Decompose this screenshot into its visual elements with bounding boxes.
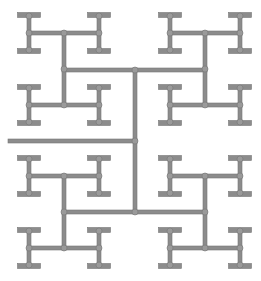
joint-node (237, 13, 243, 19)
joint-node (202, 102, 208, 108)
root-line (8, 139, 137, 143)
joint-node (237, 119, 243, 125)
joint-node (167, 119, 173, 125)
joint-node (26, 245, 32, 251)
joint-node (26, 190, 32, 196)
joint-node (26, 47, 32, 53)
joint-node (96, 13, 102, 19)
joint-node (167, 190, 173, 196)
joint-node (26, 156, 32, 162)
h-tree-diagram (0, 0, 261, 281)
joint-node (202, 173, 208, 179)
joint-node (237, 47, 243, 53)
joint-node (167, 85, 173, 91)
joint-node (96, 173, 102, 179)
joint-node (96, 262, 102, 268)
joint-node (26, 262, 32, 268)
joint-node (167, 173, 173, 179)
joint-node (237, 30, 243, 36)
joint-node (96, 119, 102, 125)
joint-node (96, 156, 102, 162)
joint-node (61, 66, 67, 72)
joint-node (202, 245, 208, 251)
joint-node (96, 85, 102, 91)
joint-node (26, 173, 32, 179)
joint-node (132, 67, 138, 73)
joint-node (61, 102, 67, 108)
joint-node (26, 102, 32, 108)
joint-node (61, 245, 67, 251)
joint-node (61, 173, 67, 179)
joint-node (167, 30, 173, 36)
joint-node (96, 190, 102, 196)
joint-node (202, 209, 208, 215)
joint-node (202, 66, 208, 72)
joint-node (61, 209, 67, 215)
joint-node (237, 262, 243, 268)
joint-node (26, 119, 32, 125)
joint-node (96, 47, 102, 53)
joint-node (132, 209, 138, 215)
joint-node (237, 85, 243, 91)
joint-node (237, 228, 243, 234)
joint-node (167, 262, 173, 268)
joint-node (167, 228, 173, 234)
joint-node (167, 47, 173, 53)
joint-node (167, 102, 173, 108)
root-branch (8, 139, 137, 143)
joint-node (237, 102, 243, 108)
joint-node (96, 30, 102, 36)
joint-node (26, 30, 32, 36)
joint-node (167, 13, 173, 19)
joint-node (96, 245, 102, 251)
joint-node (132, 138, 138, 144)
joint-node (237, 190, 243, 196)
h-tree-fractal-graphic (0, 0, 261, 281)
joint-node (167, 156, 173, 162)
joint-node (237, 156, 243, 162)
joint-node (202, 30, 208, 36)
joint-node (26, 228, 32, 234)
joint-node (26, 85, 32, 91)
joint-node (237, 245, 243, 251)
joint-node (167, 245, 173, 251)
joint-node (96, 102, 102, 108)
joint-node (26, 13, 32, 19)
joint-node (61, 30, 67, 36)
joint-node (96, 228, 102, 234)
joint-node (237, 173, 243, 179)
